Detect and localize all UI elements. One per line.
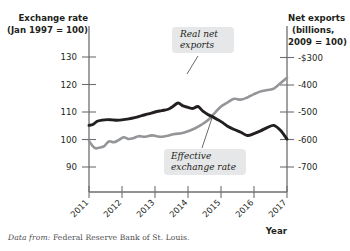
left-tick-label-110: 110	[61, 107, 77, 117]
right-tick-label-500: -500	[298, 107, 318, 117]
x-tick-label-2017: 2017	[266, 197, 288, 219]
series-line-real-net-exports	[89, 103, 287, 139]
right-tick-label-600: -600	[298, 135, 318, 145]
right-tick-label-300: -$300	[298, 53, 323, 63]
right-tick-label-700: -700	[298, 162, 318, 172]
x-tick-label-2016: 2016	[233, 197, 255, 219]
real-net-exports-leader-line	[187, 56, 198, 74]
x-axis-tick-labels: 2011201220132014201520162017	[68, 197, 288, 219]
effective-exchange-rate-callout: Effective exchange rate	[164, 118, 246, 175]
source-note-text: Federal Reserve Bank of St. Louis.	[53, 233, 190, 242]
left-tick-label-130: 130	[61, 52, 77, 62]
x-tick-label-2015: 2015	[200, 197, 222, 219]
real-net-exports-callout-line1: Real net	[179, 29, 218, 39]
right-axis-title-line1: Net exports	[288, 13, 345, 23]
source-note: Data from: Federal Reserve Bank of St. L…	[8, 233, 190, 242]
left-tick-label-90: 90	[66, 162, 77, 172]
x-axis-title: Year	[265, 226, 288, 236]
x-tick-label-2014: 2014	[167, 197, 189, 219]
chart-figure: Exchange rate (Jan 1997 = 100) Net expor…	[0, 0, 350, 251]
left-tick-label-120: 120	[61, 80, 77, 90]
left-axis-title-line1: Exchange rate	[19, 13, 89, 23]
line-chart: Exchange rate (Jan 1997 = 100) Net expor…	[0, 0, 350, 251]
real-net-exports-callout: Real net exports	[172, 27, 234, 74]
real-net-exports-callout-line2: exports	[180, 40, 215, 50]
x-tick-label-2013: 2013	[134, 197, 156, 219]
effective-exchange-rate-callout-line2: exchange rate	[171, 162, 236, 172]
source-note-prefix: Data from:	[8, 233, 50, 242]
effective-exchange-rate-callout-line1: Effective	[170, 151, 211, 161]
left-axis-title-line2: (Jan 1997 = 100)	[7, 25, 88, 35]
x-tick-label-2011: 2011	[68, 197, 90, 219]
x-tick-label-2012: 2012	[101, 197, 123, 219]
right-axis-title-line2: (billions,	[292, 25, 334, 35]
left-tick-label-100: 100	[61, 135, 77, 145]
series-line-effective-exchange-rate	[89, 78, 287, 149]
right-tick-label-400: -400	[298, 80, 318, 90]
right-axis-title-line3: 2009 = 100)	[288, 37, 347, 47]
